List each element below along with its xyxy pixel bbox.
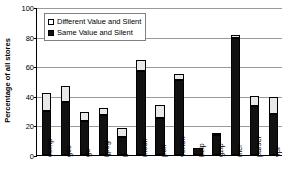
bar-segment-different-value-and-silent: [155, 105, 164, 118]
bar-group: [212, 7, 221, 155]
legend-label: Same Value and Silent: [57, 28, 133, 37]
bar-segment-different-value-and-silent: [136, 60, 145, 70]
y-tick-label: 20: [26, 122, 34, 131]
bar-segment-different-value-and-silent: [231, 35, 240, 38]
x-tick-label-text: vpr: [273, 147, 282, 157]
x-tick-label-text: perl: [159, 144, 168, 157]
x-tick-label-text: ijpeg: [102, 141, 111, 157]
x-tick-label-text: mcf: [235, 145, 244, 157]
bar-segment-different-value-and-silent: [42, 93, 51, 111]
x-tick-label-text: m88k: [140, 139, 149, 157]
bar-segment-different-value-and-silent: [269, 97, 278, 113]
bar-group: [250, 7, 259, 155]
x-tick-label-text: gzip: [216, 143, 225, 157]
bar-group: [193, 7, 202, 155]
bar-segment-different-value-and-silent: [80, 112, 89, 121]
legend-item-different-value-and-silent: Different Value and Silent: [48, 16, 141, 27]
bar-segment-different-value-and-silent: [61, 86, 70, 102]
x-tick-label-text: vortex: [178, 137, 187, 157]
bar-segment-different-value-and-silent: [250, 96, 259, 106]
x-tick-label-text: go: [83, 149, 92, 157]
x-tick-label-text: comp: [45, 139, 54, 157]
x-tick-label-text: parser: [254, 136, 263, 157]
bar-segment-different-value-and-silent: [117, 128, 126, 137]
x-tick-label-text: li: [121, 154, 130, 157]
bar-chart: Percentage of all stores 020406080100 co…: [0, 0, 288, 192]
bar-group: [269, 7, 278, 155]
y-axis-title: Percentage of all stores: [0, 0, 14, 160]
bar-segment-different-value-and-silent: [99, 108, 108, 115]
bar-group: [155, 7, 164, 155]
bar-group: [231, 7, 240, 155]
bar-segment-same-value-and-silent: [231, 38, 240, 155]
y-axis-title-text: Percentage of all stores: [3, 38, 12, 123]
filled-square-swatch-icon: [48, 30, 54, 36]
x-tick-label-text: bzip: [197, 143, 206, 157]
legend-label: Different Value and Silent: [57, 17, 141, 26]
y-tick-label: 60: [26, 63, 34, 72]
bar-group: [174, 7, 183, 155]
chart-legend: Different Value and Silent Same Value an…: [44, 13, 146, 41]
open-square-swatch-icon: [48, 19, 54, 25]
x-tick-label: vpr: [269, 157, 288, 192]
y-tick-label: 40: [26, 92, 34, 101]
bar-segment-different-value-and-silent: [212, 133, 221, 135]
x-axis-tick-labels: compgccgoijpeglim88kperlvortexbzipgzipmc…: [36, 157, 282, 192]
y-tick-label: 80: [26, 33, 34, 42]
y-tick-label: 100: [21, 4, 34, 13]
bar-segment-different-value-and-silent: [174, 74, 183, 80]
legend-item-same-value-and-silent: Same Value and Silent: [48, 27, 141, 38]
x-tick-label-text: gcc: [64, 145, 73, 157]
bar-segment-same-value-and-silent: [117, 137, 126, 155]
y-axis-tick-labels: 020406080100: [14, 8, 36, 156]
